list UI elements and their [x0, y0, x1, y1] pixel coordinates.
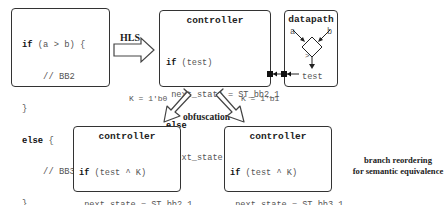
diagram-shapes	[0, 0, 446, 205]
obfuscation-left-arrow-icon	[164, 89, 191, 122]
input-b-arrow-icon	[318, 30, 330, 42]
test-connector-icon	[267, 71, 299, 77]
hls-arrow-icon	[114, 38, 154, 62]
input-a-arrow-icon	[293, 30, 305, 42]
comparator-output-arrow-icon	[309, 57, 315, 69]
obfuscation-right-arrow-icon	[216, 89, 244, 122]
